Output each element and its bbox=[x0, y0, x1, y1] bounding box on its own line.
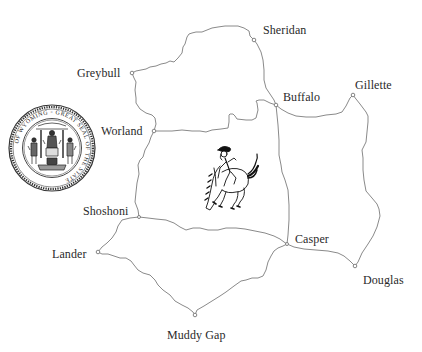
road-buffalo-casper bbox=[276, 105, 289, 244]
town-dot-sheridan[interactable] bbox=[252, 38, 256, 42]
city-label-douglas: Douglas bbox=[363, 274, 404, 286]
city-label-muddy-gap: Muddy Gap bbox=[167, 329, 226, 341]
road-greybull-worland bbox=[132, 73, 156, 131]
city-label-lander: Lander bbox=[52, 248, 87, 260]
road-muddygap-casper bbox=[195, 244, 287, 315]
city-label-casper: Casper bbox=[295, 233, 329, 245]
great-seal-icon: OF WYOMING ◦ GREAT SEAL OF THE STATE bbox=[9, 105, 95, 191]
road-worland-shoshoni bbox=[135, 131, 154, 217]
town-dot-muddy-gap[interactable] bbox=[193, 313, 197, 317]
road-gillette-douglas bbox=[353, 95, 380, 266]
town-dot-gillette[interactable] bbox=[351, 93, 355, 97]
city-label-buffalo: Buffalo bbox=[283, 91, 320, 103]
road-sheridan-buffalo bbox=[254, 40, 276, 105]
city-label-greybull: Greybull bbox=[77, 67, 120, 79]
town-dot-shoshoni[interactable] bbox=[138, 216, 141, 219]
map-canvas: OF WYOMING ◦ GREAT SEAL OF THE STATE bbox=[0, 0, 422, 352]
road-shoshoni-lander bbox=[98, 217, 139, 252]
town-dot-buffalo[interactable] bbox=[274, 103, 278, 107]
city-label-gillette: Gillette bbox=[355, 79, 392, 91]
city-label-shoshoni: Shoshoni bbox=[83, 205, 128, 217]
road-casper-douglas bbox=[287, 244, 355, 266]
road-lander-muddygap bbox=[98, 252, 195, 315]
town-dot-douglas[interactable] bbox=[353, 264, 357, 268]
road-greybull-sheridan bbox=[132, 26, 254, 73]
bucking-horse-icon bbox=[205, 146, 258, 210]
road-shoshoni-casper bbox=[139, 217, 287, 244]
town-dot-greybull[interactable] bbox=[130, 71, 134, 75]
town-dot-worland[interactable] bbox=[152, 129, 156, 133]
city-label-sheridan: Sheridan bbox=[263, 24, 306, 36]
road-worland-buffalo bbox=[154, 100, 276, 132]
road-network bbox=[98, 26, 380, 315]
town-dot-casper[interactable] bbox=[286, 243, 289, 246]
city-label-worland: Worland bbox=[101, 125, 143, 137]
town-dot-lander[interactable] bbox=[96, 250, 100, 254]
